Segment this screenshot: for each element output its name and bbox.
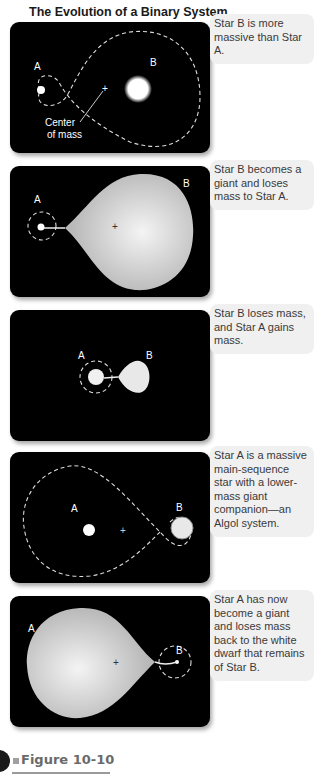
label-star-a: A bbox=[28, 623, 35, 634]
panel-3-mass-transfer: A B bbox=[10, 310, 210, 441]
label-star-b: B bbox=[146, 350, 153, 361]
center-of-mass-icon: + bbox=[102, 83, 108, 94]
binary-orbit-diagram-5: + A B bbox=[10, 596, 210, 727]
star-b-giant bbox=[171, 517, 193, 539]
label-star-a: A bbox=[34, 194, 41, 205]
binary-orbit-diagram-3: A B bbox=[10, 310, 210, 441]
label-star-a: A bbox=[78, 350, 85, 361]
center-of-mass-icon: + bbox=[113, 657, 119, 668]
mass-stream bbox=[104, 377, 118, 378]
star-a bbox=[38, 224, 45, 231]
caption-2: Star B becomes a giant and loses mass to… bbox=[210, 160, 314, 210]
label-star-a: A bbox=[71, 503, 78, 514]
caption-4: Star A is a massive main-sequence star w… bbox=[210, 446, 314, 537]
panel-4-algol-system: + A B bbox=[10, 452, 210, 583]
star-b bbox=[118, 361, 150, 393]
caption-5: Star A has now become a giant and loses … bbox=[210, 590, 314, 681]
caption-3: Star B loses mass, and Star A gains mass… bbox=[210, 304, 314, 354]
center-of-mass-label-1: Center bbox=[45, 117, 76, 128]
binary-orbit-diagram-2: + A B bbox=[10, 166, 210, 297]
figure-number: Figure 10-10 bbox=[21, 752, 114, 767]
figure-underline bbox=[12, 772, 110, 774]
mass-stream bbox=[155, 662, 177, 664]
orbit-path bbox=[23, 466, 191, 577]
label-star-b: B bbox=[183, 178, 190, 189]
center-of-mass-icon: + bbox=[112, 221, 118, 232]
star-a bbox=[37, 86, 45, 94]
star-a bbox=[83, 524, 95, 536]
caption-1: Star B is more massive than Star A. bbox=[210, 14, 314, 64]
binary-orbit-diagram-4: + A B bbox=[10, 452, 210, 583]
panel-5-star-a-giant: + A B bbox=[10, 596, 210, 727]
star-b bbox=[124, 75, 152, 103]
panel-2-star-b-giant: + A B bbox=[10, 166, 210, 297]
label-star-b: B bbox=[176, 645, 183, 656]
diagram-title: The Evolution of a Binary System bbox=[29, 5, 228, 19]
square-bullet-icon bbox=[13, 758, 19, 764]
figure-badge-icon bbox=[0, 750, 10, 772]
label-star-b: B bbox=[150, 57, 157, 68]
label-star-b: B bbox=[176, 502, 183, 513]
panel-1-star-b-more-massive: + A B Center of mass bbox=[10, 22, 210, 153]
label-star-a: A bbox=[34, 61, 41, 72]
star-b-giant bbox=[65, 174, 193, 290]
pointer-line bbox=[80, 91, 103, 122]
center-of-mass-icon: + bbox=[120, 525, 126, 536]
star-a bbox=[88, 369, 104, 385]
star-a-giant bbox=[27, 608, 155, 718]
center-of-mass-label-2: of mass bbox=[47, 129, 82, 140]
binary-orbit-diagram-1: + A B Center of mass bbox=[10, 22, 210, 153]
